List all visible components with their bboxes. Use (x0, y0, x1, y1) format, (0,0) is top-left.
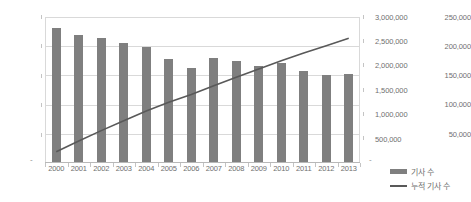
bar-2007[interactable] (209, 58, 218, 163)
y-axis-right-tickmark (363, 136, 364, 140)
y-axis-right-tick-zero: - (369, 155, 372, 164)
x-axis-label-2011: 2011 (296, 164, 311, 173)
bar-2005[interactable] (164, 59, 173, 163)
legend-item-line: 누적 기사 수 (390, 180, 450, 191)
x-axis-label-slot: 2003 (113, 164, 136, 176)
bar-series (45, 17, 360, 163)
bar-slot (338, 17, 361, 163)
x-axis-label-slot: 2008 (225, 164, 248, 176)
bar-slot (45, 17, 68, 163)
bar-2009[interactable] (254, 66, 263, 163)
chart-container: 250,000 200,000 150,000 100,000 50,000 -… (0, 0, 471, 202)
x-axis-label-2012: 2012 (318, 164, 334, 173)
bar-2012[interactable] (322, 75, 331, 163)
y-axis-left-tickmark (41, 44, 42, 48)
x-axis-label-2002: 2002 (93, 164, 109, 173)
bar-slot (158, 17, 181, 163)
legend-bar-label: 기사 수 (411, 166, 434, 177)
plot-area (45, 17, 360, 163)
bar-2001[interactable] (74, 35, 83, 163)
bar-2006[interactable] (187, 68, 196, 163)
legend: 기사 수 누적 기사 수 (390, 166, 450, 191)
y-axis-left-tickmark (41, 103, 42, 107)
legend-bar-swatch-icon (390, 169, 407, 174)
y-axis-right-tickmark (363, 112, 364, 116)
x-axis-label-2010: 2010 (273, 164, 289, 173)
y-axis-right-tick-500000: 500,000 (375, 135, 401, 144)
bar-slot (180, 17, 203, 163)
bar-slot (68, 17, 91, 163)
bar-2002[interactable] (97, 38, 106, 163)
x-axis-label-2006: 2006 (183, 164, 199, 173)
bar-slot (113, 17, 136, 163)
x-axis-label-2001: 2001 (71, 164, 87, 173)
x-axis-label-slot: 2007 (203, 164, 226, 176)
x-axis-label-slot: 2004 (135, 164, 158, 176)
x-axis-label-2013: 2013 (341, 164, 357, 173)
y-axis-right-tickmark (363, 39, 364, 43)
x-axis-label-slot: 2002 (90, 164, 113, 176)
y-axis-right-tickmark (363, 88, 364, 92)
x-axis-label-2004: 2004 (138, 164, 154, 173)
y-axis-right-tickmark (363, 63, 364, 67)
y-axis-left-tick-200000: 200,000 (431, 42, 471, 51)
x-axis-label-2007: 2007 (206, 164, 222, 173)
bar-slot (90, 17, 113, 163)
x-axis-label-slot: 2000 (45, 164, 68, 176)
y-axis-right-tick-3000000: 3,000,000 (375, 13, 407, 22)
x-axis-label-slot: 2009 (248, 164, 271, 176)
bar-2013[interactable] (344, 74, 353, 163)
x-axis-label-slot: 2013 (338, 164, 361, 176)
x-axis-label-2009: 2009 (251, 164, 267, 173)
bar-2008[interactable] (232, 61, 241, 163)
bar-slot (225, 17, 248, 163)
y-axis-right-tick-2000000: 2,000,000 (375, 61, 407, 70)
bar-slot (248, 17, 271, 163)
legend-line-label: 누적 기사 수 (411, 180, 450, 191)
x-axis-label-2003: 2003 (116, 164, 132, 173)
bar-2004[interactable] (142, 47, 151, 163)
y-axis-left-tick-50000: 50,000 (431, 130, 471, 139)
x-axis-tickmark (360, 163, 361, 167)
y-axis-right-tick-1500000: 1,500,000 (375, 86, 407, 95)
legend-line-swatch-icon (390, 185, 407, 187)
y-axis-left-tick-100000: 100,000 (431, 100, 471, 109)
y-axis-left-tickmark (41, 133, 42, 137)
y-axis-left-tickmark (41, 74, 42, 78)
bar-2011[interactable] (299, 71, 308, 163)
bar-2010[interactable] (277, 63, 286, 163)
x-axis-label-slot: 2010 (270, 164, 293, 176)
y-axis-right-tickmark (363, 15, 364, 19)
y-axis-left-tick-zero: - (30, 155, 33, 164)
x-axis-label-slot: 2005 (158, 164, 181, 176)
x-axis-label-2008: 2008 (228, 164, 244, 173)
bar-slot (315, 17, 338, 163)
bar-slot (203, 17, 226, 163)
y-axis-left-tick-250000: 250,000 (431, 13, 471, 22)
y-axis-right-tick-2500000: 2,500,000 (375, 37, 407, 46)
x-axis-label-2005: 2005 (161, 164, 177, 173)
x-axis-label-2000: 2000 (48, 164, 64, 173)
bar-slot (135, 17, 158, 163)
x-axis-labels: 2000200120022003200420052006200720082009… (45, 164, 360, 176)
x-axis-label-slot: 2006 (180, 164, 203, 176)
x-axis-label-slot: 2011 (293, 164, 316, 176)
x-axis-label-slot: 2001 (68, 164, 91, 176)
y-axis-right-tick-1000000: 1,000,000 (375, 110, 407, 119)
legend-item-bar: 기사 수 (390, 166, 450, 177)
bar-slot (270, 17, 293, 163)
y-axis-left-tick-150000: 150,000 (431, 71, 471, 80)
bar-slot (293, 17, 316, 163)
bar-2000[interactable] (52, 28, 61, 163)
x-axis-label-slot: 2012 (315, 164, 338, 176)
bar-2003[interactable] (119, 43, 128, 163)
y-axis-left-tickmark (41, 15, 42, 19)
